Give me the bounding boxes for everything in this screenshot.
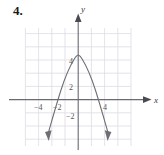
y-tick-label-neg2: −2 — [66, 112, 75, 121]
figure-screenshot: 4. — [0, 0, 164, 155]
x-tick-label-neg4: −4 — [34, 103, 43, 112]
y-axis-arrowhead — [75, 14, 82, 23]
x-axis-arrowhead — [143, 96, 152, 103]
x-axis-label: x — [153, 95, 158, 105]
parabola-graph-figure: y x −4 −2 4 4 2 −2 — [0, 0, 164, 155]
x-tick-label-pos4: 4 — [103, 103, 107, 112]
y-axis-label: y — [80, 4, 85, 14]
y-tick-label-2: 2 — [69, 83, 73, 92]
